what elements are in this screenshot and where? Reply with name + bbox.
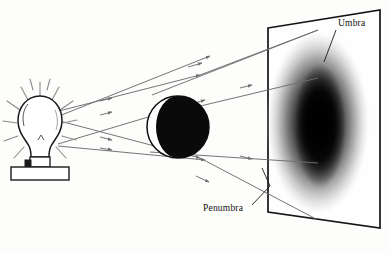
bulb-cap [30, 157, 50, 167]
bulb-base-plate [11, 167, 69, 180]
sphere-occluder [147, 96, 209, 158]
ray-arrow-right-4 [196, 176, 209, 182]
umbra-region [294, 64, 346, 188]
glow-ray [21, 87, 28, 100]
ray-arrow-right-1 [240, 85, 252, 88]
umbra-label: Umbra [338, 18, 366, 28]
bulb-glass [18, 96, 62, 157]
umbra-penumbra-diagram: Umbra Penumbra [0, 0, 390, 254]
glow-ray [4, 136, 18, 141]
glow-ray [47, 79, 50, 90]
glow-ray [7, 101, 20, 110]
glow-ray [14, 147, 24, 158]
penumbra-label: Penumbra [203, 203, 244, 213]
glow-ray [62, 136, 76, 140]
shadow-group [266, 30, 370, 216]
glow-ray [63, 120, 77, 123]
glow-ray [3, 121, 17, 123]
glow-ray [52, 87, 59, 100]
glow-ray [56, 147, 66, 158]
light-bulb [3, 79, 77, 180]
ray-arrow-mid-3 [100, 137, 112, 140]
glow-ray [30, 79, 33, 90]
ray-arrow-mid-2 [100, 112, 112, 115]
diagram-canvas: Umbra Penumbra [0, 0, 390, 254]
